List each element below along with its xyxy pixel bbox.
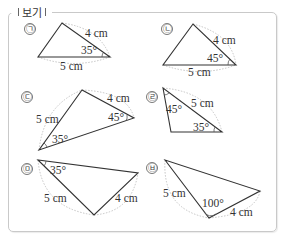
side-label: 4 cm — [115, 192, 138, 204]
side-label: 4 cm — [85, 27, 108, 39]
angle-label: 35° — [81, 44, 98, 56]
triangle-figures: ㉠ 4 cm 35° 5 cm ㉡ 4 cm 45° 5 cm ㉢ 5 cm 4… — [0, 0, 285, 240]
angle-label: 45° — [207, 52, 224, 64]
item-marker: ㉥ — [148, 163, 157, 173]
triangle-item-1: ㉠ 4 cm 35° 5 cm — [25, 23, 111, 72]
angle-label: 35° — [50, 164, 67, 176]
angle-label: 45° — [108, 111, 125, 123]
side-label: 5 cm — [191, 97, 214, 109]
angle-label: 100° — [202, 197, 224, 209]
side-label: 5 cm — [44, 192, 67, 204]
side-label: 5 cm — [163, 187, 186, 199]
side-label: 4 cm — [213, 34, 236, 46]
side-label: 5 cm — [60, 60, 83, 72]
side-label: 4 cm — [230, 206, 253, 218]
triangle-item-2: ㉡ 4 cm 45° 5 cm — [162, 24, 237, 79]
triangle-item-3: ㉢ 5 cm 4 cm 45° 35° — [22, 90, 135, 150]
item-marker: ㉣ — [148, 92, 157, 102]
triangle-item-5: ㉤ 35° 5 cm 4 cm — [22, 160, 139, 215]
side-label: 5 cm — [36, 113, 59, 125]
angle-label: 35° — [193, 121, 210, 133]
triangle-item-6: ㉥ 5 cm 100° 4 cm — [147, 160, 261, 218]
angle-label: 35° — [52, 133, 69, 145]
triangle-item-4: ㉣ 45° 5 cm 35° — [147, 88, 223, 133]
side-label: 5 cm — [188, 66, 211, 78]
item-marker: ㉡ — [163, 24, 172, 34]
item-marker: ㉠ — [26, 24, 35, 34]
item-marker: ㉢ — [23, 92, 32, 102]
side-label: 4 cm — [107, 92, 130, 104]
item-marker: ㉤ — [23, 164, 32, 174]
angle-label: 45° — [166, 103, 183, 115]
